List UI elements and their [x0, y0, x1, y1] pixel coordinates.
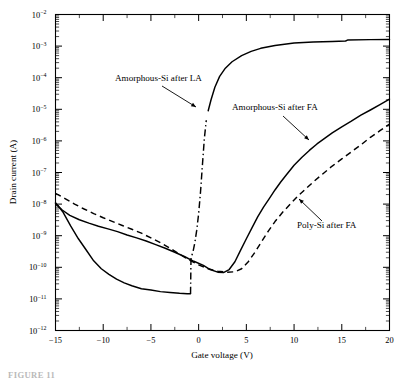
x-tick-label: −15	[49, 336, 62, 345]
y-axis-ticks	[56, 15, 390, 331]
y-tick-label: 10−7	[32, 167, 47, 177]
annotation-amorphous-si-after-la-arrowhead	[191, 103, 196, 107]
x-tick-label: −5	[146, 336, 155, 345]
y-tick-label: 10−2	[32, 9, 47, 19]
plot-area-border	[56, 15, 390, 331]
y-tick-label: 10−9	[32, 230, 47, 240]
plot-frame	[56, 15, 390, 331]
y-tick-label-text: 10−9	[32, 230, 47, 240]
annotation-poly-si-after-fa-label: Poly-Si after FA	[297, 220, 357, 230]
y-tick-label: 10−11	[29, 294, 46, 304]
y-tick-label: 10−4	[32, 72, 47, 82]
y-tick-label: 10−3	[32, 41, 47, 51]
x-tick-label: 15	[338, 336, 346, 345]
annotation-amorphous-si-after-la: Amorphous-Si after LA	[115, 73, 202, 107]
y-tick-label-text: 10−10	[29, 262, 47, 272]
y-tick-label-text: 10−5	[32, 104, 47, 114]
y-axis-tick-labels: 10−210−310−410−510−610−710−810−910−1010−…	[29, 9, 47, 335]
y-tick-label: 10−8	[32, 199, 47, 209]
curve-poly-si-after-fa	[56, 124, 390, 272]
annotation-amorphous-si-after-la-label: Amorphous-Si after LA	[115, 73, 202, 83]
x-tick-label: 0	[197, 336, 201, 345]
curve-amorphous-si-after-fa	[56, 99, 390, 272]
y-axis-title: Drain current (A)	[8, 140, 18, 204]
y-tick-label-text: 10−4	[32, 72, 47, 82]
y-tick-label: 10−6	[32, 136, 47, 146]
figure-caption: FIGURE 11	[8, 370, 55, 380]
curve-amorphous-si-after-la-on	[208, 39, 389, 110]
y-tick-label-text: 10−8	[32, 199, 47, 209]
annotation-amorphous-si-after-fa-leader	[283, 116, 309, 140]
x-tick-label: −10	[97, 336, 110, 345]
x-axis-title: Gate voltage (V)	[191, 350, 253, 360]
annotation-amorphous-si-after-la-leader	[162, 86, 196, 107]
y-tick-label-text: 10−7	[32, 167, 47, 177]
figure-root: 10−210−310−410−510−610−710−810−910−1010−…	[0, 0, 407, 381]
y-tick-label-text: 10−2	[32, 9, 47, 19]
x-tick-label: 10	[290, 336, 298, 345]
y-tick-label-text: 10−12	[29, 325, 47, 335]
annotation-amorphous-si-after-fa: Amorphous-Si after FA	[232, 102, 318, 140]
y-tick-label-text: 10−3	[32, 41, 47, 51]
curve-annotations: Amorphous-Si after LAAmorphous-Si after …	[115, 73, 357, 230]
y-tick-label: 10−10	[29, 262, 47, 272]
curve-amorphous-si-after-la-off	[56, 203, 191, 294]
annotation-poly-si-after-fa: Poly-Si after FA	[297, 199, 357, 230]
x-tick-label: 20	[385, 336, 393, 345]
x-tick-label: 5	[244, 336, 248, 345]
y-tick-label-text: 10−6	[32, 136, 47, 146]
y-tick-label: 10−5	[32, 104, 47, 114]
transfer-characteristic-chart: 10−210−310−410−510−610−710−810−910−1010−…	[0, 0, 407, 381]
y-tick-label-text: 10−11	[29, 294, 46, 304]
x-axis-ticks	[56, 15, 390, 331]
y-tick-label: 10−12	[29, 325, 47, 335]
x-axis-tick-labels: −15−10−505101520	[49, 336, 394, 345]
curve-amorphous-si-after-la-transition	[191, 120, 207, 294]
annotation-amorphous-si-after-fa-label: Amorphous-Si after FA	[232, 102, 318, 112]
data-curves	[56, 39, 390, 293]
